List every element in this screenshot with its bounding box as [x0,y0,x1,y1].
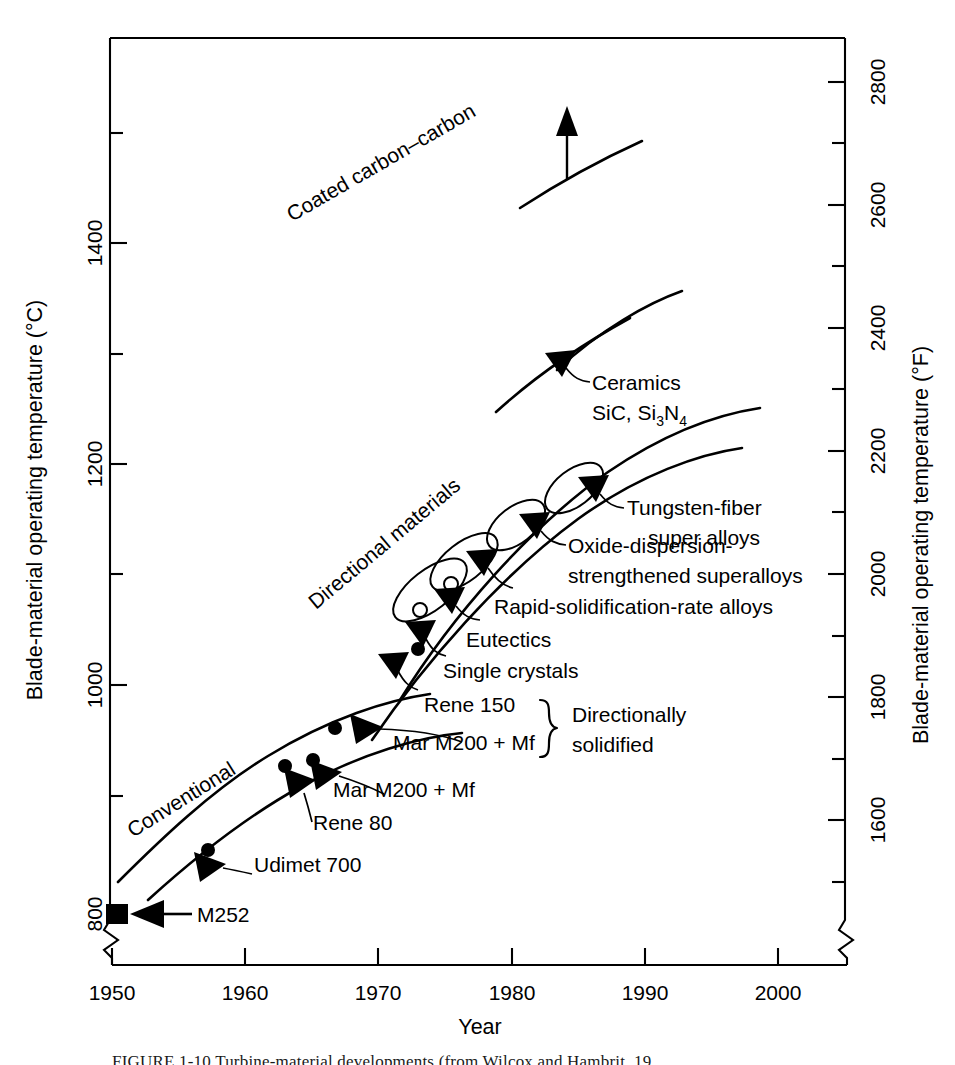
annotation-m252: M252 [197,903,250,926]
annotation-eutectics: Eutectics [466,628,551,651]
annotation-oxide-dispersion-line2: strengthened superalloys [568,564,803,587]
annotation-tungsten-fiber-line1: Tungsten-fiber [627,496,762,519]
formula-sub-4: 4 [679,413,687,429]
pointer-rene-80 [284,768,316,822]
right-axis [839,38,853,965]
tick-label-x-1960: 1960 [222,981,269,1004]
tick-label-right-1800: 1800 [866,674,889,721]
formula-sic: SiC, Si [592,401,656,424]
pointer-udimet-700 [194,852,252,882]
left-axis [104,38,118,965]
tick-label-left-1200: 1200 [83,441,106,488]
tick-label-left-1000: 1000 [83,662,106,709]
annotation-rene-150: Rene 150 [424,693,515,716]
annotation-ceramics: Ceramics [592,371,681,394]
tick-label-x-1990: 1990 [622,981,669,1004]
annotation-mar-m200-mf-upper: Mar M200 + Mf [393,731,535,754]
annotation-conventional: Conventional [123,757,239,841]
tick-label-right-2200: 2200 [866,428,889,475]
brace-directionally-solidified [540,700,557,757]
tick-label-right-1600: 1600 [866,797,889,844]
tick-label-right-2600: 2600 [866,182,889,229]
figure-root: 1400 1200 1000 800 2800 2600 2400 2200 2… [0,0,955,1065]
annotation-mar-m200-mf-lower: Mar M200 + Mf [333,778,475,801]
annotation-udimet-700: Udimet 700 [254,853,361,876]
y-axis-left-title: Blade-material operating temperature (°C… [23,300,47,701]
x-axis-title: Year [458,1015,501,1039]
tick-label-left-1400: 1400 [83,220,106,267]
tick-label-x-1970: 1970 [355,981,402,1004]
formula-sub-3: 3 [656,413,664,429]
annotation-rapid-solidification: Rapid-solidification-rate alloys [494,595,773,618]
annotation-single-crystals: Single crystals [443,659,578,682]
tick-label-right-2800: 2800 [866,59,889,106]
annotation-directionally-solidified-line1: Directionally [572,703,687,726]
annotation-coated-carbon-carbon: Coated carbon–carbon [283,99,480,226]
data-point-m252 [106,904,128,924]
annotation-directionally-solidified-line2: solidified [572,733,654,756]
formula-n: N [664,401,679,424]
pointer-m252 [130,900,192,928]
tick-label-right-2400: 2400 [866,305,889,352]
annotation-rene-80: Rene 80 [313,811,392,834]
y-axis-right-title: Blade-material operating temperature (°F… [909,346,933,744]
chart-canvas: 1400 1200 1000 800 2800 2600 2400 2200 2… [0,0,955,1065]
tick-label-x-1980: 1980 [489,981,536,1004]
figure-caption: FIGURE 1-10 Turbine-material development… [112,1052,942,1065]
data-point-mar-m200 [328,721,342,735]
curve-ceramics-upper [557,291,682,370]
curve-coated-carbon-carbon [520,141,642,208]
tick-label-right-2000: 2000 [866,551,889,598]
tick-label-x-1950: 1950 [89,981,136,1004]
data-point-open [413,603,427,617]
data-point-udimet-700 [201,843,215,857]
annotation-oxide-dispersion-line1: Oxide-dispersion- [568,534,733,557]
annotation-ceramics-formula: SiC, Si3N4 [592,401,687,429]
carbon-carbon-up-arrow [556,106,578,180]
tick-label-x-2000: 2000 [755,981,802,1004]
tick-label-left-800: 800 [83,896,106,931]
